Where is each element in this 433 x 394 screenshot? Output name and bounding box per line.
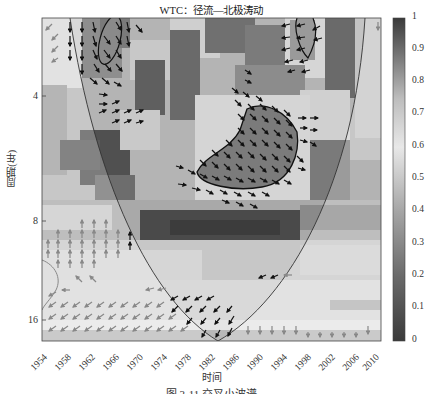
figure-caption: 图 3-11 交叉小波谱 <box>42 385 381 394</box>
colorbar-tick: 0.7 <box>412 107 424 117</box>
colorbar-tick: 0.2 <box>412 269 424 279</box>
wavelet-coherence-figure: WTC：径流—北极涛动 <box>0 0 433 394</box>
colorbar-tick: 0.3 <box>412 237 424 247</box>
colorbar-tick: 0.8 <box>412 75 424 85</box>
colorbar-tick: 0.1 <box>412 301 424 311</box>
ytick-4: 4 <box>22 90 38 101</box>
x-axis-label: 时间 <box>42 369 381 384</box>
colorbar-tick: 0.4 <box>412 204 424 214</box>
ytick-16: 16 <box>22 314 38 325</box>
colorbar <box>393 18 405 341</box>
colorbar-tick: 0.5 <box>412 172 424 182</box>
colorbar-tick: 0.9 <box>412 43 424 53</box>
colorbar-tick: 0 <box>412 334 417 344</box>
heatmap-area <box>42 13 381 341</box>
plot-svg <box>0 0 433 394</box>
colorbar-tick: 1 <box>412 11 417 21</box>
colorbar-tick: 0.6 <box>412 140 424 150</box>
ytick-8: 8 <box>22 215 38 226</box>
y-axis-label: 周期(年) <box>4 150 18 187</box>
